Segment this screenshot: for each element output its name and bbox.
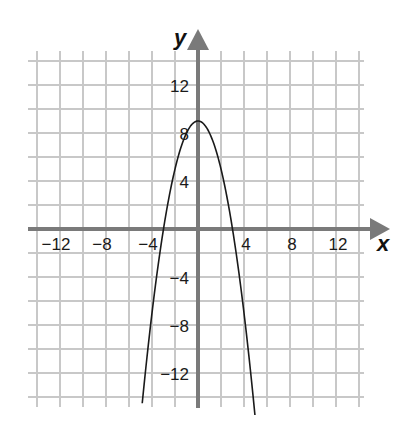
x-tick-label: 8 [287, 235, 296, 254]
y-axis-arrow-icon [187, 29, 209, 50]
x-axis-label: x [376, 231, 390, 256]
parabola-graph: −12−8−44812 1284−4−8−12 x y [0, 0, 414, 422]
x-tick-label: −8 [92, 235, 111, 254]
y-tick-label: −4 [170, 269, 189, 288]
y-tick-label: 4 [180, 173, 189, 192]
y-tick-label: 12 [170, 77, 189, 96]
x-tick-label: −12 [42, 235, 71, 254]
y-tick-label: 8 [180, 125, 189, 144]
y-axis-label: y [173, 25, 188, 50]
x-tick-label: 12 [329, 235, 348, 254]
x-tick-label: −4 [138, 235, 157, 254]
y-tick-label: −12 [160, 365, 189, 384]
y-tick-label: −8 [170, 317, 189, 336]
x-tick-label: 4 [241, 235, 250, 254]
x-tick-labels: −12−8−44812 [42, 235, 348, 254]
